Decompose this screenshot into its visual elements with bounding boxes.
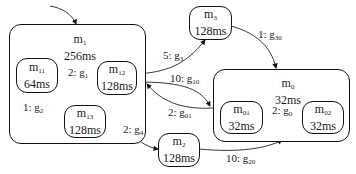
edge-label-g4: 2: g4 (123, 123, 143, 139)
node-m12: m12 128ms (97, 61, 137, 95)
node-m0-label: m0 32ms (270, 77, 306, 107)
node-m13: m13 128ms (64, 105, 106, 138)
edge-label-g20: 10: g20 (226, 152, 255, 168)
edge-label-g0: 2: g0 (272, 104, 292, 120)
edge-label-g30: 1: g30 (258, 28, 282, 44)
node-m2: m2 128ms (158, 133, 200, 167)
edge-label-g10: 10: g10 (170, 72, 199, 88)
edge-label-g1: 2: g1 (68, 66, 88, 82)
node-m1-label: m1 256ms (58, 33, 102, 63)
entry-edge-m1 (50, 6, 76, 24)
node-m3: m3 128ms (189, 6, 232, 40)
node-m01: m01 32ms (220, 101, 263, 134)
edge-label-g3: 5: g3 (163, 49, 183, 65)
edge-label-g2: 1: g2 (23, 101, 43, 117)
call-graph-diagram: m1 256ms m11 64ms m12 128ms m13 128ms m2… (0, 0, 356, 174)
node-m02: m02 32ms (302, 101, 344, 134)
node-m11: m11 64ms (16, 58, 58, 93)
edge-label-g01: 2: g01 (168, 106, 192, 122)
